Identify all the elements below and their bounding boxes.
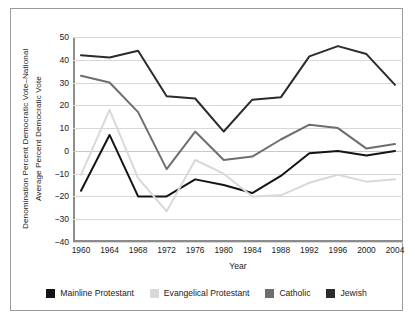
y-tick-label: 30: [35, 78, 69, 88]
legend-label: Mainline Protestant: [60, 288, 134, 298]
legend-item-mainline-protestant[interactable]: Mainline Protestant: [46, 288, 134, 298]
y-tick-label: 50: [35, 32, 69, 42]
series-lines: [73, 37, 403, 242]
legend-label: Jewish: [340, 288, 366, 298]
series-line-jewish: [81, 46, 395, 131]
legend-swatch-icon: [46, 289, 55, 298]
y-tick-label: 0: [35, 146, 69, 156]
y-tick-label: 40: [35, 55, 69, 65]
legend-label: Evangelical Protestant: [164, 288, 250, 298]
y-tick-label: −30: [35, 214, 69, 224]
chart-legend: Mainline ProtestantEvangelical Protestan…: [21, 281, 392, 305]
series-line-evangelical-protestant: [81, 110, 395, 211]
x-tick-label: 2004: [375, 245, 415, 255]
gridline: [73, 242, 403, 243]
y-axis-title-line-2: Average Percent Democratic Vote: [32, 35, 45, 243]
legend-swatch-icon: [326, 289, 335, 298]
y-tick-label: −20: [35, 191, 69, 201]
y-axis-title: Denomination Percent Democratic Vote–Nat…: [19, 35, 45, 243]
series-line-mainline-protestant: [81, 135, 395, 197]
x-axis-title: Year: [73, 261, 403, 271]
legend-swatch-icon: [265, 289, 274, 298]
legend-swatch-icon: [150, 289, 159, 298]
plot-area: 50403020100−10−20−30−40 1960196419681972…: [73, 37, 403, 242]
legend-item-catholic[interactable]: Catholic: [265, 288, 310, 298]
y-tick-label: 20: [35, 100, 69, 110]
chart-frame: Denomination Percent Democratic Vote–Nat…: [10, 8, 403, 311]
legend-item-jewish[interactable]: Jewish: [326, 288, 366, 298]
legend-item-evangelical-protestant[interactable]: Evangelical Protestant: [150, 288, 250, 298]
y-tick-label: −10: [35, 169, 69, 179]
y-tick-label: 10: [35, 123, 69, 133]
y-axis-title-line-1: Denomination Percent Democratic Vote–Nat…: [19, 35, 32, 243]
legend-label: Catholic: [279, 288, 310, 298]
